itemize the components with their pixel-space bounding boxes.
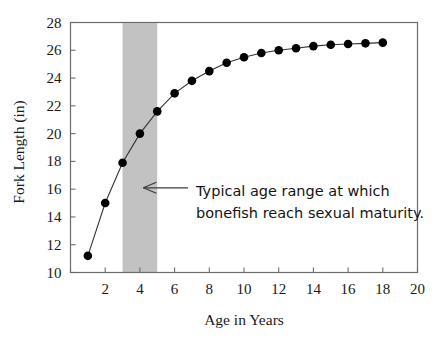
data-point [170,89,179,98]
x-tick-label: 18 [375,281,390,297]
y-tick-label: 18 [47,153,62,169]
data-point [274,46,283,55]
data-point [153,107,162,116]
data-point [118,158,127,167]
data-point [309,42,318,51]
data-point [136,129,145,138]
data-point [379,38,388,47]
annotation-line-1: Typical age range at which [195,183,390,199]
y-tick-label: 14 [47,209,63,225]
data-point [84,252,93,261]
annotation-line-2: bonefish reach sexual maturity. [196,205,424,221]
y-tick-label: 22 [47,98,62,114]
y-tick-label: 26 [47,42,63,58]
y-tick-label: 20 [47,126,62,142]
y-tick-label: 12 [47,237,62,253]
x-tick-label: 4 [136,281,144,297]
y-tick-label: 10 [47,265,62,281]
y-tick-label: 28 [47,15,62,31]
data-point [326,40,335,49]
maturity-age-band [123,23,158,272]
bonefish-growth-chart: 2468101214161820 10121416182022242628 Ty… [0,0,445,342]
data-point [257,49,266,58]
x-tick-label: 14 [306,281,322,297]
x-tick-label: 16 [341,281,357,297]
y-tick-label: 24 [47,70,63,86]
data-point [361,39,370,48]
data-point [292,44,301,53]
x-tick-label: 12 [271,281,286,297]
x-tick-label: 20 [410,281,425,297]
x-axis-title: Age in Years [204,311,284,328]
data-point [222,58,231,67]
data-point [344,40,353,49]
y-tick-label: 16 [47,181,63,197]
y-axis-title: Fork Length (in) [10,100,28,203]
data-point [188,77,197,86]
data-point [205,67,214,76]
x-tick-label: 8 [206,281,214,297]
x-tick-label: 6 [171,281,179,297]
data-point [101,199,110,208]
data-point [240,53,249,62]
x-tick-label: 2 [101,281,109,297]
x-tick-label: 10 [237,281,252,297]
chart-figure: 2468101214161820 10121416182022242628 Ty… [0,0,445,342]
